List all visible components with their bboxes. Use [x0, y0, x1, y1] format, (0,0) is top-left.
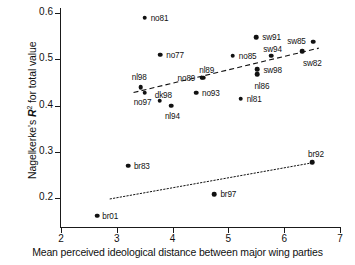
data-point-br01 — [95, 213, 100, 218]
data-point-nl94 — [169, 103, 174, 108]
y-axis-tick-label: 0.4 — [13, 99, 53, 110]
data-point-label-br97: br97 — [220, 190, 236, 199]
y-axis-tick — [55, 106, 60, 107]
data-point-label-no93: no93 — [202, 89, 220, 98]
y-axis-tick-label: 0.6 — [13, 6, 53, 17]
data-point-label-sw82: sw82 — [303, 59, 322, 68]
data-point-label-no89: no89 — [178, 74, 196, 83]
data-point-label-br01: br01 — [102, 212, 118, 221]
data-point-label-nl81: nl81 — [247, 95, 262, 104]
data-point-br92 — [310, 160, 315, 165]
data-point-label-nl89: nl89 — [199, 66, 214, 75]
data-point-label-no81: no81 — [151, 14, 169, 23]
data-point-no93 — [194, 90, 199, 95]
data-point-label-nl86: nl86 — [254, 82, 269, 91]
data-point-label-dk98: dk98 — [155, 91, 172, 100]
y-axis-tick — [55, 59, 60, 60]
y-axis-tick-label: 0.2 — [13, 191, 53, 202]
scatter-plot-figure: Nagelkerke's R2 for total value Mean per… — [0, 0, 355, 265]
data-point-nl98 — [138, 85, 143, 90]
data-point-label-sw98: sw98 — [263, 66, 282, 75]
data-point-label-sw85: sw85 — [287, 37, 306, 46]
x-axis-title: Mean perceived ideological distance betw… — [0, 246, 355, 258]
data-point-sw94 — [269, 53, 274, 58]
data-point-nl81 — [238, 96, 243, 101]
x-axis-tick-label: 5 — [218, 233, 238, 244]
y-axis-tick — [55, 198, 60, 199]
data-point-no97 — [142, 90, 147, 95]
data-point-label-sw94: sw94 — [263, 45, 282, 54]
data-point-no81 — [142, 15, 147, 20]
data-point-sw85 — [311, 39, 316, 44]
y-axis-tick — [55, 152, 60, 153]
data-point-label-no97: no97 — [134, 98, 152, 107]
y-axis-tick-label: 0.3 — [13, 145, 53, 156]
data-point-label-sw91: sw91 — [262, 33, 281, 42]
x-axis-tick-label: 2 — [51, 233, 71, 244]
y-axis-title: Nagelkerke's R2 for total value — [26, 15, 39, 205]
data-point-br83 — [126, 163, 131, 168]
x-axis-spine — [60, 227, 341, 228]
x-axis-tick-label: 6 — [274, 233, 294, 244]
data-point-nl86 — [255, 72, 260, 77]
y-axis-title-symbol: R — [26, 110, 38, 117]
y-axis-spine — [60, 8, 61, 227]
data-point-label-no85: no85 — [239, 52, 257, 61]
data-point-no85 — [231, 53, 236, 58]
data-point-no77 — [158, 52, 163, 57]
x-axis-tick-label: 3 — [107, 233, 127, 244]
data-point-label-br83: br83 — [134, 162, 150, 171]
data-point-label-br92: br92 — [308, 150, 324, 159]
x-axis-tick-label: 4 — [163, 233, 183, 244]
y-axis-tick-label: 0.5 — [13, 52, 53, 63]
y-axis-tick — [55, 13, 60, 14]
data-point-nl89 — [201, 75, 206, 80]
data-point-br97 — [212, 192, 217, 197]
data-point-sw91 — [254, 35, 259, 40]
data-point-sw82 — [300, 49, 305, 54]
y-axis-title-suffix: for total value — [26, 41, 38, 105]
x-axis-tick-label: 7 — [330, 233, 350, 244]
data-point-label-nl94: nl94 — [165, 112, 180, 121]
data-point-label-no77: no77 — [166, 51, 184, 60]
data-point-label-nl98: nl98 — [132, 73, 147, 82]
